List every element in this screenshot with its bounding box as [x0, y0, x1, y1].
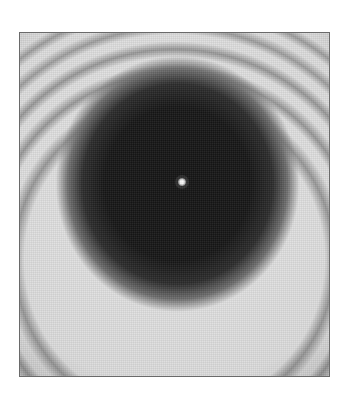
bright-center-spot: [178, 178, 186, 186]
image-frame: [19, 32, 330, 377]
dark-central-disc: [20, 33, 329, 376]
